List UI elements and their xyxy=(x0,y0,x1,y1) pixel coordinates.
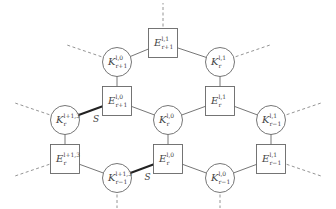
circle-node-K_r_l_1: Kl,1r xyxy=(206,48,235,77)
node-subscript: r−1 xyxy=(270,120,282,127)
node-superscript: l,0 xyxy=(116,54,124,61)
node-subscript: r−1 xyxy=(219,178,231,185)
node-superscript: l,1 xyxy=(270,151,278,158)
circle-node-K_r_l+1_3: Kl+1,3r xyxy=(51,106,81,135)
circle-node-K_r+1_l_0: Kl,0r+1 xyxy=(103,48,132,77)
node-superscript: l,1 xyxy=(219,54,227,61)
circle-node-K_r-1_l+1_3: Kl+1,3r−1 xyxy=(103,164,133,193)
node-subscript: r+1 xyxy=(116,62,128,69)
node-superscript: l+1,3 xyxy=(64,151,81,158)
node-subscript: r xyxy=(219,101,222,108)
node-subscript: r xyxy=(64,159,67,166)
node-superscript: l,0 xyxy=(219,170,227,177)
node-subscript: r+1 xyxy=(162,43,174,50)
square-node-E_r-1_l_1: El,1r−1 xyxy=(257,145,286,174)
square-node-E_r_l_1: El,1r xyxy=(206,87,235,116)
node-subscript: r−1 xyxy=(116,178,128,185)
honeycomb-diagram: SS El,1r+1Kl,0r+1Kl,1rEl,0r+1El,1rKl+1,3… xyxy=(0,0,336,209)
node-superscript: l,0 xyxy=(167,112,175,119)
circle-node-K_r_l_0: Kl,0r xyxy=(154,106,183,135)
edge-label-s: S xyxy=(93,114,99,124)
node-superscript: l+1,3 xyxy=(116,170,133,177)
node-superscript: l+1,3 xyxy=(64,112,81,119)
node-subscript: r xyxy=(219,62,222,69)
nodes-layer: El,1r+1Kl,0r+1Kl,1rEl,0r+1El,1rKl+1,3rKl… xyxy=(51,29,286,193)
node-superscript: l,1 xyxy=(162,35,170,42)
node-subscript: r xyxy=(64,120,67,127)
square-node-E_r_l_0: El,0r xyxy=(154,145,183,174)
square-node-E_r+1_l_0: El,0r+1 xyxy=(103,87,132,116)
node-superscript: l,1 xyxy=(270,112,278,119)
node-subscript: r−1 xyxy=(270,159,282,166)
node-superscript: l,1 xyxy=(219,93,227,100)
node-superscript: l,0 xyxy=(116,93,124,100)
node-superscript: l,0 xyxy=(167,151,175,158)
square-node-E_r_l+1_3: El+1,3r xyxy=(51,145,81,174)
node-subscript: r+1 xyxy=(116,101,128,108)
node-subscript: r xyxy=(167,159,170,166)
square-node-E_r+1_l_1: El,1r+1 xyxy=(149,29,178,58)
edge-label-s: S xyxy=(145,172,151,182)
circle-node-K_r-1_l_1: Kl,1r−1 xyxy=(257,106,286,135)
circle-node-K_r-1_l_0: Kl,0r−1 xyxy=(206,164,235,193)
node-subscript: r xyxy=(167,120,170,127)
